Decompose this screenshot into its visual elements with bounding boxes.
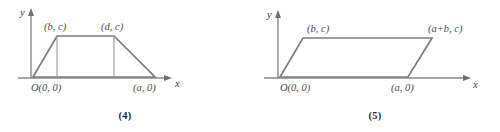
label-top-right-4: (d, c) [101, 21, 124, 33]
label-origin-5: O(0, 0) [280, 82, 311, 94]
figure-5-caption: (5) [250, 110, 500, 121]
figure-4-caption: (4) [0, 110, 250, 121]
label-top-left-4: (b, c) [44, 21, 67, 33]
x-axis-label: x [174, 78, 180, 89]
y-axis-group-5: y [266, 9, 281, 78]
y-axis-arrow-icon [28, 8, 34, 16]
y-axis-arrow-icon [275, 10, 281, 18]
x-axis-arrow-icon [164, 75, 172, 81]
figures-sheet: y x (b, c) (d, c) O(0, 0) (a, 0) (4) [0, 0, 500, 132]
parallelogram-outline [280, 38, 432, 77]
label-top-right-5: (a+b, c) [428, 23, 463, 35]
y-axis-label: y [266, 9, 272, 20]
figure-panel-4: y x (b, c) (d, c) O(0, 0) (a, 0) (4) [0, 0, 250, 132]
label-bottom-right-5: (a, 0) [391, 82, 414, 94]
y-axis-label: y [19, 7, 25, 18]
label-top-left-5: (b, c) [307, 23, 330, 35]
x-axis-label: x [472, 79, 478, 90]
y-axis-group-4: y [19, 7, 34, 78]
label-origin-4: O(0, 0) [31, 82, 62, 94]
label-bottom-right-4: (a, 0) [133, 82, 156, 94]
trapezoid-outline [33, 36, 155, 77]
figure-panel-5: y x (b, c) (a+b, c) O(0, 0) (a, 0) (5) [250, 0, 500, 132]
x-axis-arrow-icon [463, 75, 471, 81]
